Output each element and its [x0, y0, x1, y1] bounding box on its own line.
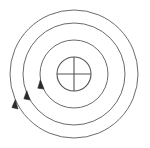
direction-arrow-shell-1-icon [38, 80, 44, 89]
atom-diagram [0, 0, 150, 148]
atom-diagram-svg [0, 0, 150, 148]
direction-arrow-shell-2-icon [24, 91, 30, 100]
